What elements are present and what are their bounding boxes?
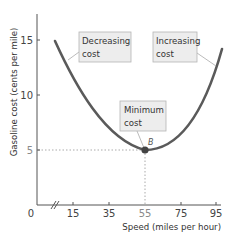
callout-minimum-cost: Minimum cost	[120, 101, 166, 131]
x-tick-label-15: 15	[67, 208, 80, 219]
x-axis-title: Speed (miles per hour)	[122, 222, 221, 232]
callout-increasing-line2: cost	[156, 49, 174, 59]
y-axis-title: Gasoline cost (cents per mile)	[9, 28, 19, 157]
point-b-marker	[141, 146, 148, 153]
x-tick-label-95: 95	[210, 208, 223, 219]
x-tick-label-75: 75	[175, 208, 188, 219]
leader-increasing	[197, 53, 216, 66]
callout-increasing-line1: Increasing	[156, 36, 200, 46]
y-tick-label-10: 10	[20, 90, 33, 101]
callout-decreasing-line1: Decreasing	[82, 36, 130, 46]
gasoline-cost-chart: 15 10 5 0 15 35 55 75 95 Speed (miles pe…	[0, 0, 241, 235]
callout-decreasing-line2: cost	[82, 49, 100, 59]
callout-minimum-line2: cost	[124, 118, 142, 128]
callout-increasing-cost: Increasing cost	[153, 32, 200, 62]
x-tick-label-55: 55	[139, 208, 152, 219]
x-tick-label-35: 35	[103, 208, 116, 219]
y-tick-label-15: 15	[20, 35, 33, 46]
callout-decreasing-cost: Decreasing cost	[79, 32, 131, 62]
point-b-label: B	[148, 138, 154, 147]
y-tick-label-5: 5	[27, 145, 33, 156]
callout-minimum-line1: Minimum	[124, 105, 164, 115]
leader-minimum	[137, 131, 144, 148]
leader-decreasing	[68, 52, 79, 60]
origin-label: 0	[28, 208, 34, 219]
